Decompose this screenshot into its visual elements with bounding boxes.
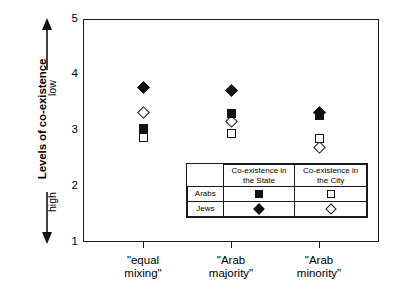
y-tick-label-4: 4: [62, 68, 78, 80]
legend-swatch-jews-state: [223, 202, 295, 217]
x-tick-2: [231, 242, 232, 248]
legend-header-city-line2: the City: [297, 176, 364, 186]
data-point-square-filled-0: [139, 124, 148, 133]
x-tick-3: [319, 242, 320, 248]
legend-row-arabs: Arabs: [188, 187, 367, 202]
diamond-open-icon: [325, 203, 336, 214]
x-category-label-arab-minority: "Arab minority": [259, 254, 379, 280]
legend-corner-cell: [188, 165, 224, 187]
legend-header-city: Co-existence in the City: [295, 165, 367, 187]
diamond-filled-icon: [253, 203, 264, 214]
chart-figure: Levels of co-existence low high 5 4 3 2 …: [0, 0, 399, 299]
square-filled-icon: [255, 190, 263, 198]
y-tick-label-5: 5: [62, 13, 78, 25]
y-tick-label-3: 3: [62, 124, 78, 136]
legend-swatch-arabs-state: [223, 187, 295, 202]
x-category-line1: "Arab: [259, 254, 379, 267]
legend-row-jews: Jews: [188, 202, 367, 217]
data-point-square-open-1: [227, 129, 236, 138]
chart-legend: Co-existence in the State Co-existence i…: [186, 163, 368, 218]
data-point-square-open-0: [139, 133, 148, 142]
y-tick-label-2: 2: [62, 180, 78, 192]
y-axis-direction-high-label: high: [46, 192, 58, 212]
legend-header-state: Co-existence in the State: [223, 165, 295, 187]
data-point-square-filled-2: [315, 111, 324, 120]
x-tick-1: [143, 242, 144, 248]
legend-row-label-jews: Jews: [188, 202, 224, 217]
legend-row-label-arabs: Arabs: [188, 187, 224, 202]
x-category-line2: minority": [259, 267, 379, 280]
data-point-square-open-2: [315, 134, 324, 143]
y-axis-direction-low-label: low: [46, 80, 58, 96]
legend-swatch-jews-city: [295, 202, 367, 217]
legend-header-state-line1: Co-existence in: [226, 166, 293, 176]
square-open-icon: [327, 190, 335, 198]
y-tick-label-1: 1: [62, 236, 78, 248]
data-point-square-filled-1: [227, 109, 236, 118]
legend-header-state-line2: the State: [226, 176, 293, 186]
legend-header-city-line1: Co-existence in: [297, 166, 364, 176]
legend-swatch-arabs-city: [295, 187, 367, 202]
